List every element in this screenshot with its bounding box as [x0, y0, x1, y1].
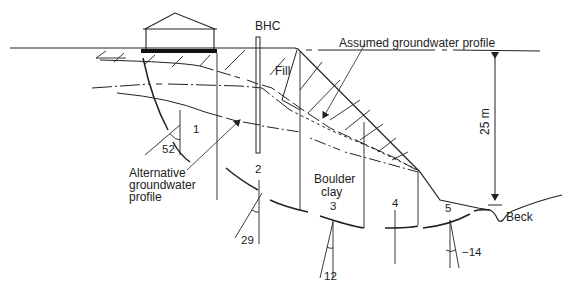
slice-1-label: 1	[193, 123, 199, 135]
boulder-clay-label-2: clay	[321, 185, 342, 199]
slice-4-label: 4	[392, 197, 399, 209]
angle-indicators	[145, 110, 459, 278]
foundation	[141, 49, 217, 53]
slope-stability-diagram: BHC Fill Assumed groundwater profile Alt…	[0, 0, 566, 293]
slice-5-label: 5	[445, 202, 451, 214]
slice-3-label: 3	[330, 200, 336, 212]
beck-label: Beck	[506, 210, 534, 224]
crest-dashed-line	[306, 50, 540, 51]
slip-circle	[143, 58, 490, 228]
slice-2-label: 2	[255, 163, 261, 175]
slice-5-angle: −14	[462, 246, 482, 258]
house-icon	[143, 13, 217, 49]
slice-3-angle: 12	[324, 270, 337, 282]
alternative-gw-label-3: profile	[129, 190, 162, 204]
assumed-gw-label: Assumed groundwater profile	[339, 36, 495, 50]
fill-label: Fill	[275, 64, 290, 78]
fill-hatching	[300, 62, 408, 160]
borehole-label: BHC	[255, 19, 281, 33]
height-dimension-label: 25 m	[478, 108, 492, 135]
borehole-icon	[256, 37, 260, 153]
slice-1-angle: 52	[162, 143, 175, 155]
leader-lines	[187, 44, 365, 170]
slice-2-angle: 29	[241, 234, 254, 246]
surface-hatching	[96, 50, 285, 75]
boulder-clay-label-1: Boulder	[314, 172, 355, 186]
